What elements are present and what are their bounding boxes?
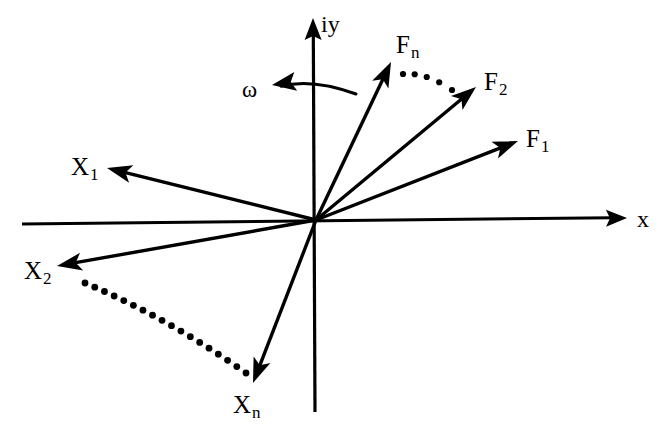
x2-to-xn-dots-dot xyxy=(224,357,231,364)
fn-to-f2-dots-dot xyxy=(424,74,430,80)
x2-to-xn-dots-dot xyxy=(196,339,203,346)
vector-label-fn: Fn xyxy=(396,32,419,61)
omega-label: ω xyxy=(242,78,257,101)
x2-to-xn-dots-dot xyxy=(159,317,166,324)
x2-to-xn-dots-dot xyxy=(130,302,137,309)
x2-to-xn-dots-dot xyxy=(101,288,108,295)
x2-to-xn-dots-dot xyxy=(149,312,156,319)
vector-label-f1: F1 xyxy=(526,126,549,155)
x2-to-xn-dots-dot xyxy=(140,307,147,314)
vector-label-subscript: 1 xyxy=(540,137,550,156)
x-axis-label: x xyxy=(637,207,649,231)
x2-to-xn-dots-dot xyxy=(168,322,175,329)
x2-to-xn-dots-dot xyxy=(206,345,213,352)
vector-label-subscript: 2 xyxy=(42,269,52,288)
vector-label-subscript: n xyxy=(251,403,261,422)
x2-to-xn-dots-dot xyxy=(187,333,194,340)
displacement-vector-x2-shaft xyxy=(73,220,316,263)
vector-label-x2: X2 xyxy=(24,258,52,287)
displacement-vectors-group xyxy=(57,165,316,383)
omega-arc-arrowhead xyxy=(272,72,297,91)
displacement-vector-x1-shaft xyxy=(123,172,316,220)
x2-to-xn-dots-dot xyxy=(91,284,98,291)
vector-label-xn: Xn xyxy=(233,392,261,421)
vector-label-x1: X1 xyxy=(71,154,99,183)
fn-to-f2-dots-dot xyxy=(449,87,455,93)
vector-label-subscript: 2 xyxy=(498,80,508,99)
vector-label-base: F xyxy=(526,125,540,152)
vector-label-base: X xyxy=(233,391,251,418)
iy-axis-label: iy xyxy=(321,12,340,36)
vector-label-subscript: n xyxy=(410,43,420,62)
vector-label-f2: F2 xyxy=(484,69,507,98)
x2-to-xn-dots-dot xyxy=(178,328,185,335)
phasor-diagram-canvas xyxy=(0,0,664,429)
vector-label-base: X xyxy=(24,257,42,284)
vector-label-subscript: 1 xyxy=(89,165,99,184)
vector-label-base: F xyxy=(484,68,498,95)
fn-to-f2-dots-dot xyxy=(436,79,442,85)
x2-to-xn-dots-dot xyxy=(120,297,127,304)
displacement-vector-xn-shaft xyxy=(259,220,316,368)
x2-to-xn-dots-dot xyxy=(233,363,240,370)
fn-to-f2-dots-dot xyxy=(400,71,406,77)
x2-to-xn-dots-dot xyxy=(243,370,250,377)
phasor-diagram-figure: x iy ω F1F2FnX1X2Xn xyxy=(0,0,664,429)
fn-to-f2-dots-dot xyxy=(412,71,418,77)
x2-to-xn-dots-dot xyxy=(215,351,222,358)
vector-label-base: F xyxy=(396,31,410,58)
vector-label-base: X xyxy=(71,153,89,180)
x2-to-xn-dots-dot xyxy=(111,293,118,300)
force-vector-f2-shaft xyxy=(316,97,464,220)
x2-to-xn-dots-dot xyxy=(82,280,89,287)
